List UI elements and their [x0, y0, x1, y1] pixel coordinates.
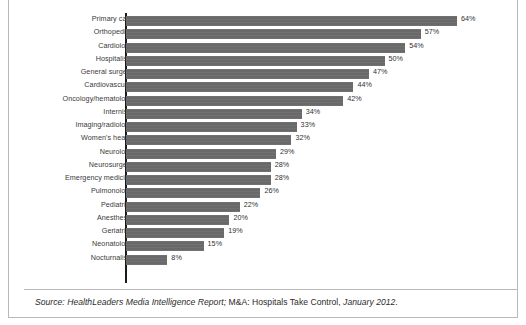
- category-label: Pulmonology: [33, 186, 133, 196]
- category-label: Oncology/hematology: [33, 94, 133, 104]
- bar-row: Pediatrics22%: [23, 202, 519, 212]
- bar: [126, 96, 343, 106]
- bar-value-label: 22%: [244, 200, 259, 210]
- bar: [126, 69, 369, 79]
- bar: [126, 135, 291, 145]
- category-label: Internists: [33, 107, 133, 117]
- bar: [126, 255, 167, 265]
- bar-value-label: 64%: [461, 14, 476, 24]
- category-label: Pediatrics: [33, 200, 133, 210]
- bar-value-label: 8%: [171, 253, 182, 263]
- category-label: Orthopedics: [33, 27, 133, 37]
- category-label: Neurosurgery: [33, 160, 133, 170]
- bar-value-label: 44%: [357, 80, 372, 90]
- category-label: Nocturnalists: [33, 253, 133, 263]
- bar-value-label: 28%: [275, 160, 290, 170]
- bar-row: Pulmonology26%: [23, 188, 519, 198]
- source-note-mid: M&A: Hospitals Take Control,: [226, 297, 341, 307]
- bar: [126, 228, 224, 238]
- category-label: Cardiovascular: [33, 80, 133, 90]
- bar-value-label: 29%: [280, 147, 295, 157]
- source-note: Source: HealthLeaders Media Intelligence…: [35, 296, 398, 308]
- bar-value-label: 26%: [264, 186, 279, 196]
- bar-row: Primary care64%: [23, 16, 519, 26]
- bar: [126, 188, 260, 198]
- bar: [126, 241, 204, 251]
- bar: [126, 16, 457, 26]
- bar: [126, 215, 229, 225]
- bar: [126, 122, 297, 132]
- bar-value-label: 42%: [347, 94, 362, 104]
- category-label: Emergency medicine: [33, 173, 133, 183]
- source-note-lead: Source: HealthLeaders Media Intelligence…: [35, 297, 226, 307]
- bar: [126, 56, 385, 66]
- bar-row: Internists34%: [23, 109, 519, 119]
- bar-row: General surgery47%: [23, 69, 519, 79]
- category-label: General surgery: [33, 67, 133, 77]
- bar-row: Orthopedics57%: [23, 29, 519, 39]
- category-label: Women's health: [33, 133, 133, 143]
- bar: [126, 202, 240, 212]
- bar-value-label: 33%: [301, 120, 316, 130]
- bar-value-label: 54%: [409, 41, 424, 51]
- bar-chart: Primary care64%Orthopedics57%Cardiology5…: [23, 13, 519, 285]
- bar-value-label: 32%: [295, 133, 310, 143]
- bar-value-label: 15%: [208, 239, 223, 249]
- bar: [126, 43, 405, 53]
- bar-row: Anesthesia20%: [23, 215, 519, 225]
- bar-row: Imaging/radiology33%: [23, 122, 519, 132]
- category-label: Neurology: [33, 147, 133, 157]
- bar-row: Cardiology54%: [23, 43, 519, 53]
- bar-row: Geriatrics19%: [23, 228, 519, 238]
- bar-value-label: 47%: [373, 67, 388, 77]
- bar-value-label: 28%: [275, 173, 290, 183]
- source-note-divider: [24, 289, 518, 290]
- bar: [126, 162, 271, 172]
- bar: [126, 109, 302, 119]
- bar-row: Cardiovascular44%: [23, 82, 519, 92]
- bar-value-label: 57%: [425, 27, 440, 37]
- bar-row: Nocturnalists8%: [23, 255, 519, 265]
- bar-row: Women's health32%: [23, 135, 519, 145]
- bar: [126, 175, 271, 185]
- bar-value-label: 50%: [389, 54, 404, 64]
- bar-row: Neurology29%: [23, 149, 519, 159]
- category-label: Anesthesia: [33, 213, 133, 223]
- bar-row: Neurosurgery28%: [23, 162, 519, 172]
- bar: [126, 149, 276, 159]
- category-label: Geriatrics: [33, 226, 133, 236]
- bar-value-label: 19%: [228, 226, 243, 236]
- bar-row: Hospitalists50%: [23, 56, 519, 66]
- bar-row: Oncology/hematology42%: [23, 96, 519, 106]
- figure-frame: Primary care64%Orthopedics57%Cardiology5…: [8, 0, 518, 318]
- bar-row: Emergency medicine28%: [23, 175, 519, 185]
- category-label: Neonatology: [33, 239, 133, 249]
- bar-value-label: 34%: [306, 107, 321, 117]
- category-label: Imaging/radiology: [33, 120, 133, 130]
- bar: [126, 29, 421, 39]
- category-label: Primary care: [33, 14, 133, 24]
- bar: [126, 82, 353, 92]
- category-label: Hospitalists: [33, 54, 133, 64]
- bar-value-label: 20%: [233, 213, 248, 223]
- bar-row: Neonatology15%: [23, 241, 519, 251]
- category-label: Cardiology: [33, 41, 133, 51]
- figure-page: Primary care64%Orthopedics57%Cardiology5…: [0, 0, 526, 325]
- source-note-tail: January 2012.: [341, 297, 398, 307]
